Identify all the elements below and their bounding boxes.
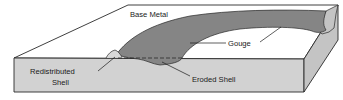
label-eroded-shell: Eroded Shell	[192, 75, 236, 84]
label-base-metal: Base Metal	[130, 10, 168, 19]
label-redistributed-line1: Redistributed	[30, 67, 75, 76]
label-gouge: Gouge	[228, 39, 251, 48]
gouge-diagram: Base Metal Gouge Redistributed Shell Ero…	[0, 0, 343, 100]
label-redistributed-line2: Shell	[52, 78, 69, 87]
